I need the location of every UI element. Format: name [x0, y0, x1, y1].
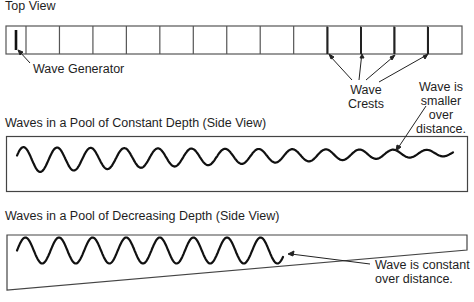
diagram-canvas — [0, 0, 474, 302]
crest-arrows-icon — [329, 54, 428, 82]
crest-lines — [328, 27, 429, 54]
smaller-note-arrow-icon — [396, 106, 426, 151]
constant-depth-pool — [7, 137, 468, 192]
constant-wave — [17, 238, 283, 264]
decaying-wave — [17, 147, 453, 172]
generator-arrow-icon — [18, 50, 30, 63]
